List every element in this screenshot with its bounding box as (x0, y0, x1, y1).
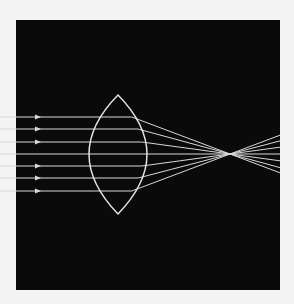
lens-diagram (0, 0, 294, 304)
